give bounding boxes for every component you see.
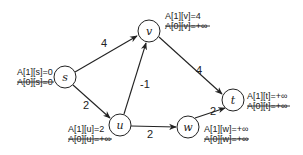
weight-v-t: 4 — [196, 64, 202, 76]
weight-u-w: 2 — [147, 128, 153, 140]
node-label-u: u — [116, 119, 123, 132]
annotation-s-current: A[1][s]=0 — [17, 67, 53, 77]
annotation-v-current: A[1][v]=4 — [165, 11, 201, 21]
edge-v-t — [159, 37, 222, 94]
weight-s-u: 2 — [83, 99, 89, 111]
node-u: u — [109, 114, 131, 136]
weight-w-t: 2 — [210, 105, 216, 117]
node-v: v — [138, 20, 160, 42]
node-label-w: w — [183, 121, 193, 134]
node-t: t — [222, 89, 244, 111]
edge-u-w — [131, 126, 176, 127]
weight-s-v: 4 — [101, 37, 107, 49]
node-w: w — [177, 116, 199, 138]
node-label-v: v — [146, 25, 153, 38]
weight-u-v: -1 — [140, 78, 150, 90]
node-s: s — [54, 66, 76, 88]
node-label-t: t — [231, 94, 236, 107]
edge-s-u — [73, 85, 110, 118]
graph-canvas: 4 4 -1 2 2 2 s v t u w A[1][s]=0 A[0][s]… — [0, 0, 303, 155]
annotation-w-current: A[1][w]=+∞ — [204, 124, 248, 134]
annotation-t-current: A[1][t]=+∞ — [247, 91, 287, 101]
annotation-u-current: A[1][u]=2 — [68, 124, 104, 134]
node-label-s: s — [62, 71, 68, 84]
